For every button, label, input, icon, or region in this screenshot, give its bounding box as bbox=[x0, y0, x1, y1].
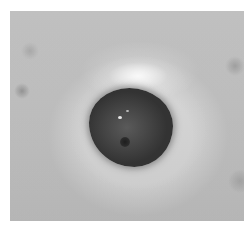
specular-highlight bbox=[118, 116, 122, 119]
stoma-lumen bbox=[120, 137, 130, 147]
specular-highlight-small bbox=[126, 110, 129, 112]
skin-highlight bbox=[108, 62, 168, 90]
